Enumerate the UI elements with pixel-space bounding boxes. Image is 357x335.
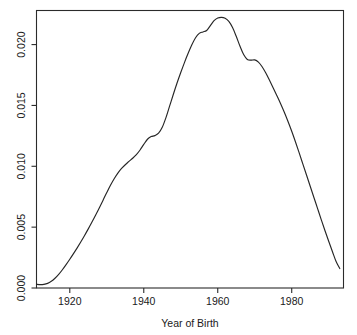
y-tick-label: 0.015 — [15, 92, 27, 118]
x-tick-label: 1980 — [280, 295, 304, 307]
x-tick-label: 1960 — [206, 295, 230, 307]
chart-canvas: 0.0000.0050.0100.0150.020 19201940196019… — [0, 0, 357, 335]
y-tick-label: 0.020 — [15, 31, 27, 57]
x-axis-title: Year of Birth — [161, 317, 219, 329]
y-tick-label: 0.000 — [15, 275, 27, 301]
x-tick-label: 1920 — [58, 295, 82, 307]
y-tick-label: 0.005 — [15, 214, 27, 240]
density-chart: 0.0000.0050.0100.0150.020 19201940196019… — [0, 0, 357, 335]
x-tick-label: 1940 — [132, 295, 156, 307]
y-tick-label: 0.010 — [15, 153, 27, 179]
